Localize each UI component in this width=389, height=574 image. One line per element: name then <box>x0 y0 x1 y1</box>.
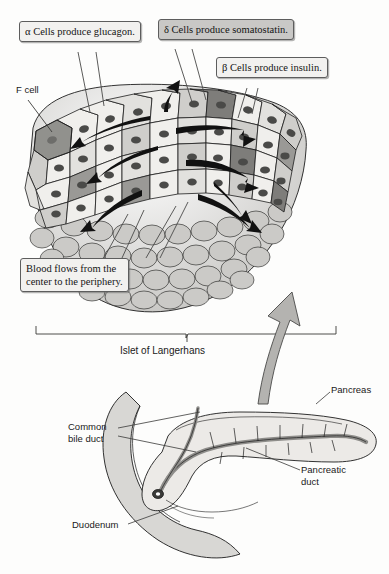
caption-islet-of-langerhans: Islet of Langerhans <box>120 345 205 356</box>
label-pancreas-line1: Pancreas <box>331 384 371 396</box>
callout-alpha-cells: α Cells produce glucagon. <box>19 21 141 42</box>
label-pancreatic-duct-line2: duct <box>301 476 346 488</box>
callout-alpha-text: α Cells produce glucagon. <box>25 26 135 37</box>
callout-delta-cells: δ Cells produce somatostatin. <box>158 19 294 40</box>
label-common-bile-duct: Common bile duct <box>68 421 107 444</box>
callout-beta-text: β Cells produce insulin. <box>222 62 322 73</box>
label-duodenum: Duodenum <box>72 519 118 531</box>
callout-blood-flow-line2: center to the periphery. <box>26 275 123 288</box>
callout-blood-flow: Blood flows from the center to the perip… <box>20 258 129 292</box>
label-pancreatic-duct: Pancreatic duct <box>301 464 346 487</box>
label-pancreatic-duct-line1: Pancreatic <box>301 464 346 476</box>
magnification-arrow <box>258 292 300 404</box>
label-f-cell: F cell <box>16 84 39 96</box>
callout-blood-flow-line1: Blood flows from the <box>26 262 123 275</box>
label-common-bile-duct-line1: Common <box>68 421 107 433</box>
callout-beta-cells: β Cells produce insulin. <box>216 57 328 78</box>
label-pancreas: Pancreas <box>331 384 371 396</box>
callout-delta-text: δ Cells produce somatostatin. <box>164 24 288 35</box>
islet-brace <box>36 326 336 342</box>
label-f-cell-line1: F cell <box>16 84 39 96</box>
label-common-bile-duct-line2: bile duct <box>68 433 107 445</box>
figure-page: α Cells produce glucagon. δ Cells produc… <box>0 0 389 574</box>
label-duodenum-line1: Duodenum <box>72 519 118 531</box>
